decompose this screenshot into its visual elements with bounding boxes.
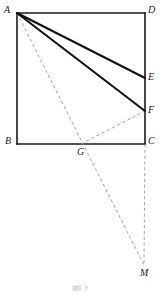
vertex-label-E: E bbox=[148, 72, 154, 82]
segment-AF bbox=[17, 13, 145, 111]
geometry-figure: A D E F B G C M 图 2 bbox=[0, 0, 160, 293]
vertex-label-D: D bbox=[148, 5, 155, 15]
segment-AE bbox=[17, 13, 145, 78]
segment-CM bbox=[144, 144, 145, 265]
figure-caption: 图 2 bbox=[0, 285, 160, 291]
vertex-label-A: A bbox=[4, 5, 10, 15]
segment-AM bbox=[17, 13, 144, 265]
vertex-label-B: B bbox=[5, 136, 11, 146]
segment-GF bbox=[81, 111, 145, 144]
vertex-label-G: G bbox=[77, 147, 84, 157]
vertex-label-C: C bbox=[148, 136, 155, 146]
vertex-label-F: F bbox=[148, 105, 154, 115]
vertex-label-M: M bbox=[140, 268, 148, 278]
